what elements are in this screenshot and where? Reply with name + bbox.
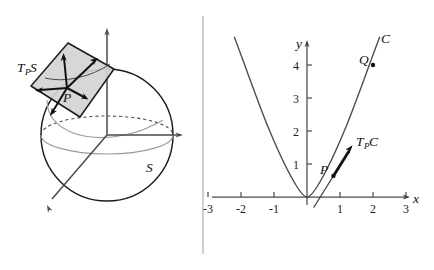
y-axis-label: y	[294, 36, 302, 51]
tangent-plane-label-group: T P S	[17, 60, 37, 77]
curve-c-label: C	[381, 31, 391, 46]
left-point-p-label: P	[62, 90, 71, 105]
tangent-plane-parallelogram	[31, 43, 114, 117]
x-tick-label-1: 1	[337, 202, 343, 216]
y-axis-ticks	[307, 65, 312, 164]
figure-root: P T P S S	[0, 0, 434, 270]
depth-axis-arrowhead	[47, 205, 53, 213]
surface-s-label: S	[146, 160, 153, 175]
right-panel-parabola-plot: -3 -2 -1 1 2 3 1 2 3 4 x y	[203, 31, 419, 216]
point-q-marker	[371, 63, 375, 67]
y-tick-label-4: 4	[293, 59, 299, 73]
x-tick-label-3: 3	[403, 202, 409, 216]
x-tick-label--3: -3	[203, 202, 213, 216]
x-tick-label--2: -2	[236, 202, 246, 216]
tangent-vector-at-p	[333, 151, 349, 176]
point-p-marker	[331, 174, 335, 178]
point-q-label: Q	[359, 52, 369, 67]
tangent-plane-label-s: S	[30, 60, 37, 75]
left-panel-sphere-diagram: P T P S S	[17, 28, 183, 213]
figure-canvas: P T P S S	[0, 0, 434, 270]
point-p-label: P	[319, 162, 328, 177]
y-tick-label-1: 1	[293, 158, 299, 172]
tangent-label-c: C	[369, 134, 379, 149]
x-axis-label: x	[412, 191, 419, 206]
depth-axis-line	[52, 135, 107, 199]
x-tick-label-2: 2	[370, 202, 376, 216]
y-tick-label-2: 2	[293, 125, 299, 139]
y-tick-label-3: 3	[293, 92, 299, 106]
x-tick-label--1: -1	[269, 202, 279, 216]
tangent-label-group: T P C	[356, 134, 379, 151]
